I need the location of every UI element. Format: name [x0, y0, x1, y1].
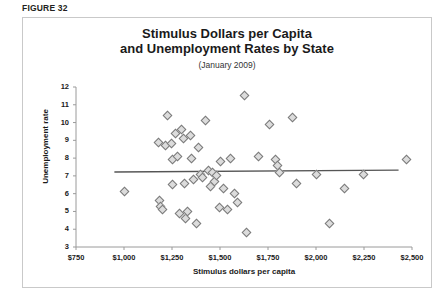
figure-label: FIGURE 32 — [22, 3, 68, 13]
y-tick-label: 4 — [49, 224, 69, 233]
x-tick-label: $750 — [51, 253, 101, 262]
chart-title-line1: Stimulus Dollars per Capita — [142, 26, 312, 41]
y-tick-label: 12 — [49, 82, 69, 91]
x-tick-label: $2,250 — [339, 253, 389, 262]
y-tick-label: 7 — [49, 171, 69, 180]
x-tick-label: $1,750 — [243, 253, 293, 262]
y-tick-label: 9 — [49, 135, 69, 144]
chart-frame — [22, 17, 432, 288]
chart-title-line2: and Unemployment Rates by State — [22, 41, 432, 56]
x-tick-label: $1,000 — [99, 253, 149, 262]
x-axis-title: Stimulus dollars per capita — [76, 267, 412, 276]
x-tick-label: $2,000 — [291, 253, 341, 262]
y-tick-label: 10 — [49, 118, 69, 127]
x-tick-label: $2,500 — [387, 253, 437, 262]
y-tick-label: 5 — [49, 206, 69, 215]
x-tick-label: $1,500 — [195, 253, 245, 262]
y-tick-label: 11 — [49, 100, 69, 109]
y-tick-label: 3 — [49, 242, 69, 251]
y-tick-label: 8 — [49, 153, 69, 162]
chart-title: Stimulus Dollars per Capita and Unemploy… — [22, 26, 432, 56]
figure-container: FIGURE 32 Stimulus Dollars per Capita an… — [0, 0, 445, 305]
chart-subtitle: (January 2009) — [22, 60, 432, 70]
y-tick-label: 6 — [49, 189, 69, 198]
x-tick-label: $1,250 — [147, 253, 197, 262]
